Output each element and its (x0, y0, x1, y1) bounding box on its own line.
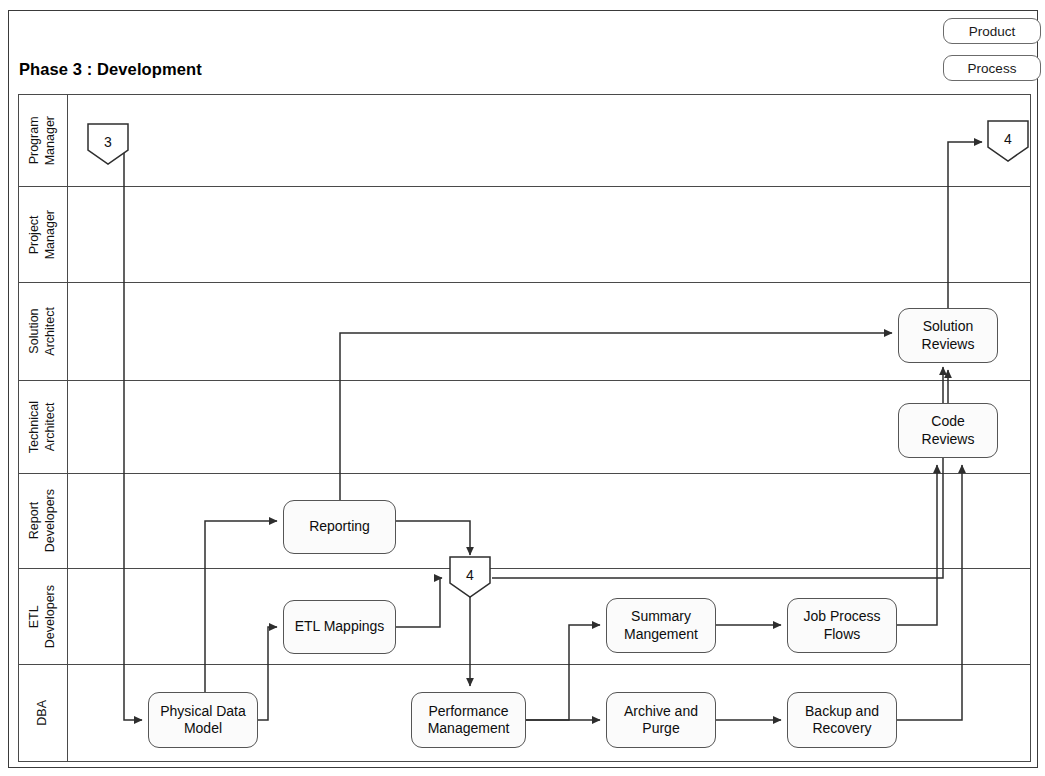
node-code-reviews[interactable]: Code Reviews (898, 403, 998, 458)
swimlane-label-text: ETL Developers (27, 585, 58, 648)
swimlane-label-text: Program Manager (27, 116, 58, 165)
swimlane-label-text: DBA (35, 700, 51, 726)
swimlane-label-text: Solution Architect (27, 307, 58, 356)
swimlane-label-text: Project Manager (27, 210, 58, 259)
node-label: Performance Management (428, 703, 510, 737)
node-label: Solution Reviews (922, 318, 975, 352)
swimlane-project-manager: Project Manager (18, 186, 1030, 282)
node-label: Job Process Flows (803, 608, 880, 642)
page-title: Phase 3 : Development (19, 60, 202, 79)
node-job-process-flows[interactable]: Job Process Flows (787, 598, 897, 653)
swimlane-label-project-manager: Project Manager (18, 187, 68, 282)
node-label: Summary Mangement (624, 608, 698, 642)
node-label: Reporting (309, 518, 370, 535)
node-physical-data-model[interactable]: Physical Data Model (148, 692, 258, 748)
connector-label: 4 (1004, 131, 1012, 147)
swimlane-solution-architect: Solution Architect (18, 282, 1030, 380)
swimlane-grid: Program Manager Project Manager Solution… (18, 94, 1030, 762)
node-performance-management[interactable]: Performance Management (411, 692, 526, 748)
legend-chip-product[interactable]: Product (943, 18, 1041, 44)
node-label: ETL Mappings (295, 618, 385, 635)
node-label: Code Reviews (922, 413, 975, 447)
swimlane-label-technical-architect: Technical Architect (18, 381, 68, 473)
swimlane-label-text: Report Developers (27, 489, 58, 552)
swimlane-label-etl-developers: ETL Developers (18, 569, 68, 664)
connector-junction-4[interactable]: 4 (446, 553, 494, 601)
connector-out-4[interactable]: 4 (984, 117, 1032, 165)
node-backup-and-recovery[interactable]: Backup and Recovery (787, 692, 897, 748)
connector-label: 3 (104, 134, 112, 150)
swimlane-label-solution-architect: Solution Architect (18, 283, 68, 380)
node-label: Archive and Purge (624, 703, 698, 737)
node-label: Physical Data Model (160, 703, 246, 737)
node-summary-mangement[interactable]: Summary Mangement (606, 598, 716, 653)
swimlane-report-developers: Report Developers (18, 473, 1030, 568)
node-etl-mappings[interactable]: ETL Mappings (283, 600, 396, 654)
node-solution-reviews[interactable]: Solution Reviews (898, 308, 998, 363)
legend-chip-process[interactable]: Process (943, 55, 1041, 81)
legend-chip-process-label: Process (968, 61, 1017, 76)
connector-label: 4 (466, 567, 474, 583)
node-archive-and-purge[interactable]: Archive and Purge (606, 692, 716, 748)
node-reporting[interactable]: Reporting (283, 500, 396, 554)
node-label: Backup and Recovery (805, 703, 879, 737)
legend-chip-product-label: Product (969, 24, 1016, 39)
diagram-page: Phase 3 : Development Product Process Pr… (0, 0, 1045, 776)
swimlane-label-program-manager: Program Manager (18, 95, 68, 186)
connector-in-3[interactable]: 3 (84, 120, 132, 168)
swimlane-label-report-developers: Report Developers (18, 474, 68, 568)
swimlane-technical-architect: Technical Architect (18, 380, 1030, 473)
swimlane-program-manager: Program Manager (18, 94, 1030, 186)
swimlane-right-rail (1030, 94, 1031, 762)
swimlane-label-dba: DBA (18, 665, 68, 761)
swimlane-label-text: Technical Architect (27, 401, 58, 453)
